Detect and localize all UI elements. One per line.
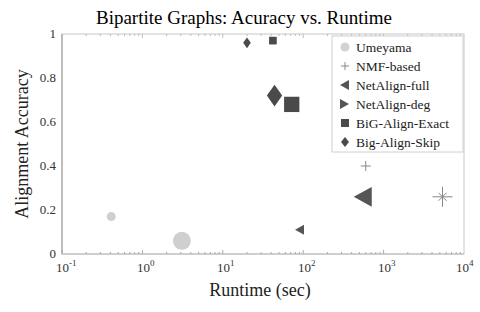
data-point-umeyama (173, 232, 191, 250)
data-point-nmf-based (432, 187, 452, 207)
chart-title: Bipartite Graphs: Acuracy vs. Runtime (96, 7, 392, 28)
x-ticks: 10-1 100 101 102 103 104 (56, 258, 474, 275)
legend-item-netalign-full: NetAlign-full (356, 78, 430, 93)
y-tick-0: 0 (50, 246, 57, 261)
y-ticks: 0 0.2 0.4 0.6 0.8 1 (40, 26, 57, 261)
x-tick-1e3: 103 (378, 258, 396, 275)
data-point-umeyama (107, 212, 116, 221)
data-point-big-align-exact (284, 97, 299, 112)
data-point-big-align-skip (267, 85, 282, 107)
x-tick-1e-1: 10-1 (56, 258, 77, 275)
square-icon (341, 119, 349, 127)
y-tick-0.6: 0.6 (40, 114, 57, 129)
y-tick-0.8: 0.8 (40, 70, 56, 85)
scatter-chart: Bipartite Graphs: Acuracy vs. Runtime 0 … (0, 0, 480, 312)
legend-item-big-align-skip: Big-Align-Skip (356, 135, 440, 150)
legend-item-big-align-exact: BiG-Align-Exact (356, 116, 449, 131)
x-tick-1e1: 101 (217, 258, 235, 275)
legend-item-umeyama: Umeyama (356, 40, 411, 55)
data-point-big-align-exact (269, 37, 277, 45)
x-tick-1e0: 100 (137, 258, 155, 275)
data-point-nmf-based (361, 161, 371, 171)
y-axis-label: Alignment Accuracy (12, 69, 32, 218)
x-axis-label: Runtime (sec) (209, 280, 310, 301)
legend: Umeyama NMF-based NetAlign-full NetAlign… (332, 36, 463, 152)
data-point-big-align-skip (243, 37, 251, 48)
legend-item-nmf-based: NMF-based (356, 59, 421, 74)
x-tick-1e2: 102 (298, 258, 316, 275)
legend-item-netalign-deg: NetAlign-deg (356, 97, 430, 112)
x-tick-1e4: 104 (456, 258, 474, 275)
y-tick-0.4: 0.4 (40, 158, 57, 173)
y-tick-1: 1 (50, 26, 57, 41)
data-point-netalign-full (295, 225, 304, 235)
data-point-netalign-full (354, 187, 372, 207)
circle-icon (341, 43, 350, 52)
y-tick-0.2: 0.2 (40, 202, 56, 217)
